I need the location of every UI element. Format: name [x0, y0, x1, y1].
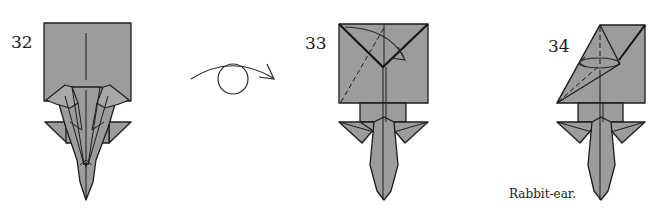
step-32-right-flap [109, 122, 131, 143]
origami-diagram: 32 33 34 Rabbit-ear. [0, 0, 653, 222]
step-34-model [557, 25, 645, 200]
turn-over-symbol [191, 64, 274, 94]
step-32-left-flap [45, 122, 67, 143]
turn-over-circle [218, 64, 248, 94]
step-32-model [44, 23, 131, 200]
diagram-graphics [0, 0, 653, 222]
step-33-model [339, 24, 428, 200]
